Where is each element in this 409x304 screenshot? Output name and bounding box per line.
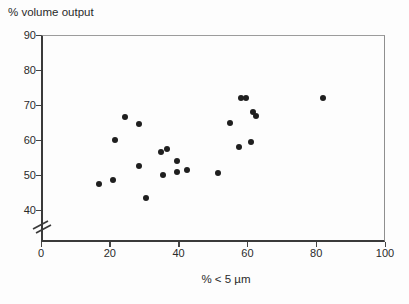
y-tick-label: 50 — [10, 169, 36, 182]
x-tick-label: 40 — [164, 247, 194, 260]
x-axis-title: % < 5 µm — [166, 273, 286, 285]
data-point — [174, 169, 180, 175]
y-tick-mark — [36, 70, 41, 72]
y-tick-label: 90 — [10, 29, 36, 42]
y-tick-mark — [36, 140, 41, 142]
data-point — [227, 120, 233, 126]
scatter-figure: % volume output 908070605040020406080100… — [0, 0, 409, 304]
data-point — [253, 113, 259, 119]
x-tick-label: 60 — [232, 247, 262, 260]
plot-area — [41, 35, 385, 242]
x-tick-label: 80 — [301, 247, 331, 260]
x-tick-label: 100 — [370, 247, 400, 260]
y-tick-label: 60 — [10, 134, 36, 147]
y-tick-mark — [36, 210, 41, 212]
y-tick-label: 80 — [10, 64, 36, 77]
y-axis-break-icon — [31, 218, 53, 236]
x-tick-label: 0 — [26, 247, 56, 260]
data-point — [174, 158, 180, 164]
data-point — [143, 195, 149, 201]
data-point — [164, 146, 170, 152]
y-tick-label: 40 — [10, 204, 36, 217]
data-point — [248, 139, 254, 145]
data-point — [243, 95, 249, 101]
data-point — [112, 137, 118, 143]
x-tick-label: 20 — [95, 247, 125, 260]
y-tick-mark — [36, 35, 41, 37]
y-tick-label: 70 — [10, 99, 36, 112]
data-point — [184, 167, 190, 173]
y-axis-title: % volume output — [8, 6, 94, 18]
y-tick-mark — [36, 105, 41, 107]
data-point — [236, 144, 242, 150]
y-tick-mark — [36, 175, 41, 177]
